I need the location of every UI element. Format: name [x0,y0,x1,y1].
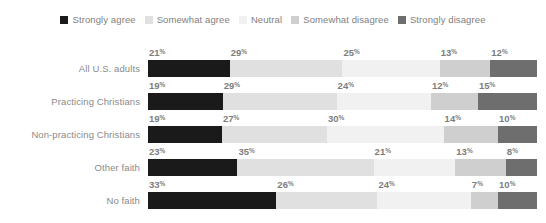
bar-segment-value: 8% [507,146,518,157]
bar-segment-value: 12% [491,47,507,58]
percent-sign: % [490,81,496,88]
segment-value-number: 24 [338,80,349,91]
segment-value-number: 10 [499,113,510,124]
bar-segment[interactable]: 10% [498,126,537,143]
percent-sign: % [389,180,395,187]
bar-segment-value: 19% [149,113,165,124]
bar-segment-value: 29% [231,47,247,58]
percent-sign: % [385,147,391,154]
bar-segment[interactable]: 21% [374,159,456,176]
segment-value-number: 27 [223,113,234,124]
percent-sign: % [348,81,354,88]
bar-segment-value: 10% [499,179,515,190]
legend-item-2[interactable]: Neutral [239,14,282,25]
legend-item-3[interactable]: Somewhat disagree [291,14,389,25]
bar-segment[interactable]: 13% [455,159,506,176]
segment-value-number: 21 [149,47,160,58]
percent-sign: % [160,114,166,121]
percent-sign: % [467,147,473,154]
bar-segment-value: 13% [456,146,472,157]
bar-segment[interactable]: 14% [444,126,498,143]
segment-value-number: 26 [277,179,288,190]
bar-segment[interactable]: 30% [327,126,444,143]
legend-item-label: Strongly disagree [410,14,486,25]
bar-segment[interactable]: 12% [490,60,537,77]
percent-sign: % [442,81,448,88]
percent-sign: % [234,81,240,88]
bar-segment[interactable]: 33% [148,192,276,209]
bar-segment-value: 10% [499,113,515,124]
bar-segment-value: 19% [149,80,165,91]
bar-segment[interactable]: 24% [377,192,470,209]
bar-segment-value: 21% [149,47,165,58]
legend-item-0[interactable]: Strongly agree [60,14,135,25]
bar-segment[interactable]: 29% [230,60,343,77]
chart-plot-area: All U.S. adults21%29%25%13%12%Practicing… [0,45,546,210]
percent-sign: % [455,114,461,121]
segment-value-number: 12 [432,80,443,91]
stacked-bar: 19%27%30%14%10% [148,126,537,143]
percent-sign: % [510,180,516,187]
percent-sign: % [160,147,166,154]
bar-segment-value: 27% [223,113,239,124]
stacked-bar-chart: Strongly agreeSomewhat agreeNeutralSomew… [0,0,546,223]
bar-segment[interactable]: 12% [431,93,478,110]
legend-item-label: Somewhat disagree [303,14,389,25]
segment-value-number: 29 [224,80,235,91]
row-category-label: Non-practicing Christians [0,129,140,140]
bar-segment[interactable]: 7% [471,192,498,209]
bar-segment[interactable]: 25% [342,60,439,77]
bar-segment-value: 24% [338,80,354,91]
bar-segment[interactable]: 13% [440,60,491,77]
bar-segment[interactable]: 35% [237,159,373,176]
percent-sign: % [241,48,247,55]
chart-row: No faith33%26%24%7%10% [0,177,546,210]
bar-segment[interactable]: 10% [498,192,537,209]
percent-sign: % [502,48,508,55]
bar-segment-value: 13% [441,47,457,58]
stacked-bar: 19%29%24%12%15% [148,93,537,110]
bar-segment[interactable]: 23% [148,159,237,176]
row-category-label: Other faith [0,162,140,173]
bar-segment[interactable]: 26% [276,192,377,209]
percent-sign: % [160,81,166,88]
bar-segment[interactable]: 15% [478,93,537,110]
square-swatch-icon [60,16,68,24]
segment-value-number: 10 [499,179,510,190]
bar-segment[interactable]: 8% [506,159,537,176]
bar-segment-value: 15% [479,80,495,91]
segment-value-number: 15 [479,80,490,91]
segment-value-number: 14 [445,113,456,124]
segment-value-number: 12 [491,47,502,58]
bar-segment[interactable]: 19% [148,93,223,110]
square-swatch-icon [398,16,406,24]
stacked-bar: 21%29%25%13%12% [148,60,537,77]
row-category-label: Practicing Christians [0,96,140,107]
legend-item-4[interactable]: Strongly disagree [398,14,486,25]
percent-sign: % [160,48,166,55]
segment-value-number: 13 [456,146,467,157]
bar-segment[interactable]: 19% [148,126,222,143]
bar-segment[interactable]: 27% [222,126,327,143]
bar-segment-value: 21% [375,146,391,157]
square-swatch-icon [239,16,247,24]
bar-segment-value: 29% [224,80,240,91]
percent-sign: % [451,48,457,55]
segment-value-number: 29 [231,47,242,58]
square-swatch-icon [145,16,153,24]
percent-sign: % [512,147,518,154]
bar-segment-value: 30% [328,113,344,124]
bar-segment-value: 25% [343,47,359,58]
bar-segment-value: 33% [149,179,165,190]
bar-segment[interactable]: 24% [337,93,431,110]
square-swatch-icon [291,16,299,24]
percent-sign: % [354,48,360,55]
legend-item-label: Neutral [251,14,282,25]
bar-segment[interactable]: 29% [223,93,337,110]
bar-segment-value: 14% [445,113,461,124]
bar-segment-value: 23% [149,146,165,157]
legend-item-1[interactable]: Somewhat agree [145,14,230,25]
chart-row: All U.S. adults21%29%25%13%12% [0,45,546,78]
percent-sign: % [160,180,166,187]
bar-segment[interactable]: 21% [148,60,230,77]
